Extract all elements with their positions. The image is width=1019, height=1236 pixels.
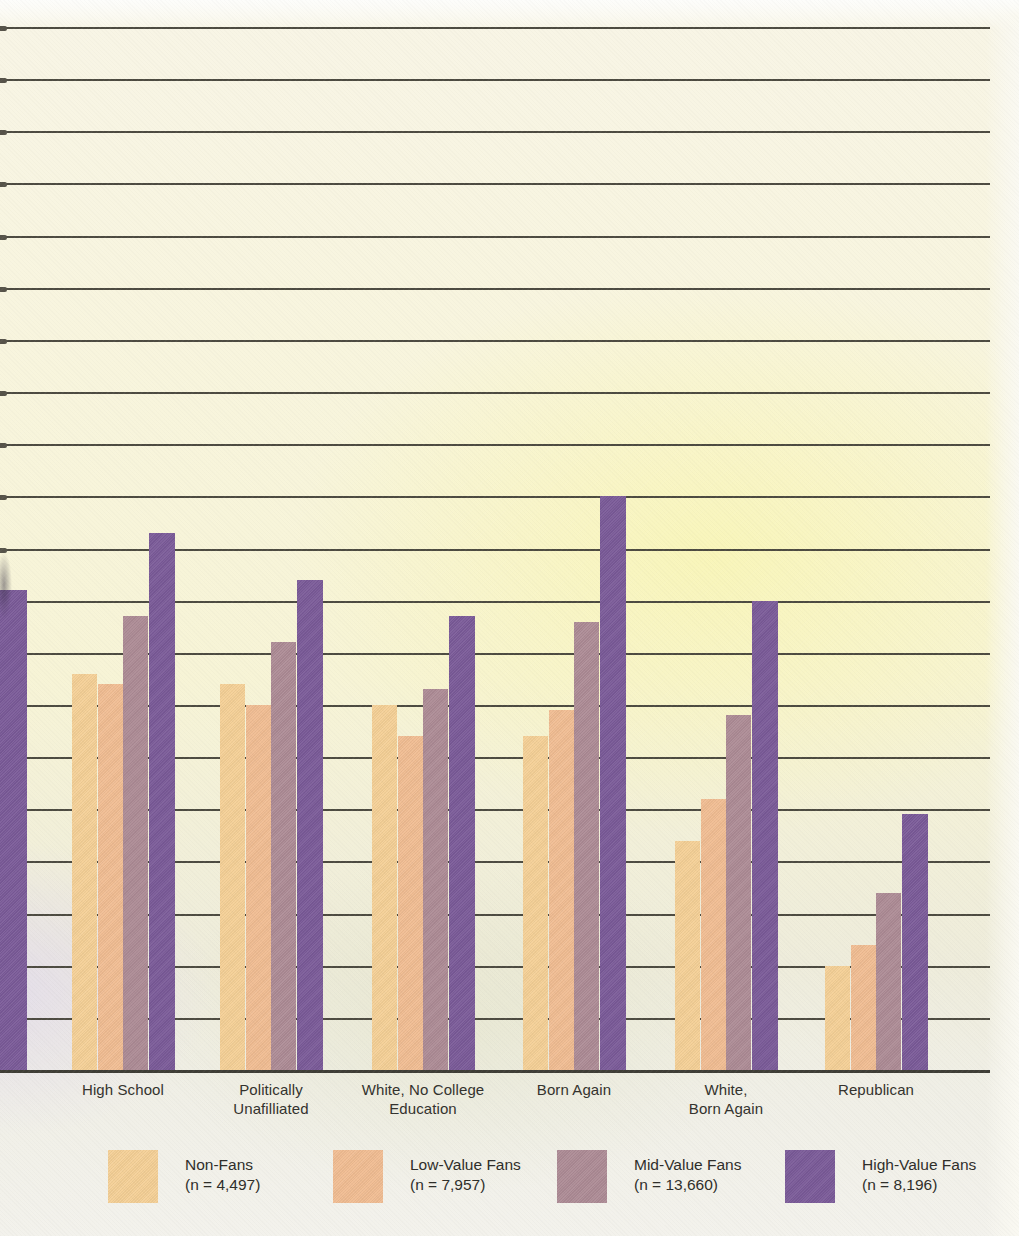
legend-series-name: Low-Value Fans bbox=[410, 1155, 521, 1175]
legend-label-mid-value-fans: Mid-Value Fans(n = 13,660) bbox=[634, 1155, 741, 1195]
book-page-photo: High SchoolPoliticallyUnafilliatedWhite,… bbox=[0, 0, 1019, 1236]
legend-swatch-low-value-fans bbox=[333, 1150, 383, 1203]
page-binding-notch bbox=[0, 182, 7, 187]
legend-label-low-value-fans: Low-Value Fans(n = 7,957) bbox=[410, 1155, 521, 1195]
gridline bbox=[0, 288, 990, 290]
legend-item-mid-value-fans: Mid-Value Fans(n = 13,660) bbox=[557, 1150, 777, 1206]
bar-cropped-high-value-fans bbox=[0, 590, 27, 1072]
x-axis-label-republican: Republican bbox=[788, 1080, 964, 1099]
legend-series-name: Mid-Value Fans bbox=[634, 1155, 741, 1175]
page-binding-notch bbox=[0, 339, 7, 344]
page-binding-notch bbox=[0, 235, 7, 240]
bar-mid-value-fans-born-again bbox=[574, 622, 599, 1072]
gridline bbox=[0, 79, 990, 81]
legend-series-name: Non-Fans bbox=[185, 1155, 260, 1175]
bar-high-value-fans-white-no-college-education bbox=[449, 616, 475, 1072]
bar-high-value-fans-high-school bbox=[149, 533, 175, 1072]
x-axis-label-line: Born Again bbox=[486, 1080, 662, 1099]
legend-item-low-value-fans: Low-Value Fans(n = 7,957) bbox=[333, 1150, 553, 1206]
bar-non-fans-high-school bbox=[72, 674, 97, 1072]
gridline bbox=[0, 444, 990, 446]
axis-baseline bbox=[0, 1070, 990, 1073]
bar-low-value-fans-born-again bbox=[549, 710, 574, 1072]
page-binding-notch bbox=[0, 130, 7, 135]
x-axis-label-line: Born Again bbox=[638, 1099, 814, 1118]
x-axis-label-line: Education bbox=[335, 1099, 511, 1118]
bar-high-value-fans-born-again bbox=[600, 496, 626, 1072]
x-axis-label-line: White, No College bbox=[335, 1080, 511, 1099]
gridline bbox=[0, 183, 990, 185]
bar-low-value-fans-white-born-again bbox=[701, 799, 726, 1072]
bar-low-value-fans-politically-unafilliated bbox=[246, 705, 271, 1072]
bar-high-value-fans-politically-unafilliated bbox=[297, 580, 323, 1072]
x-axis-label-born-again: Born Again bbox=[486, 1080, 662, 1099]
legend-label-high-value-fans: High-Value Fans(n = 8,196) bbox=[862, 1155, 976, 1195]
bar-mid-value-fans-politically-unafilliated bbox=[271, 642, 296, 1072]
bar-non-fans-born-again bbox=[523, 736, 548, 1072]
legend-series-name: High-Value Fans bbox=[862, 1155, 976, 1175]
legend-swatch-high-value-fans bbox=[785, 1150, 835, 1203]
legend-series-n: (n = 4,497) bbox=[185, 1175, 260, 1195]
gridline bbox=[0, 340, 990, 342]
x-axis-label-line: Politically bbox=[183, 1080, 359, 1099]
page-binding-notch bbox=[0, 287, 7, 292]
bar-mid-value-fans-white-no-college-education bbox=[423, 689, 448, 1072]
gridline bbox=[0, 236, 990, 238]
bar-non-fans-white-born-again bbox=[675, 841, 700, 1072]
bar-high-value-fans-white-born-again bbox=[752, 601, 778, 1072]
gridline bbox=[0, 496, 990, 498]
legend-series-n: (n = 13,660) bbox=[634, 1175, 741, 1195]
x-axis-label-line: Unafilliated bbox=[183, 1099, 359, 1118]
bar-low-value-fans-white-no-college-education bbox=[398, 736, 423, 1072]
bar-non-fans-republican bbox=[825, 966, 850, 1072]
gridline bbox=[0, 392, 990, 394]
legend-series-n: (n = 8,196) bbox=[862, 1175, 976, 1195]
x-axis-label-politically-unafilliated: PoliticallyUnafilliated bbox=[183, 1080, 359, 1118]
bar-non-fans-politically-unafilliated bbox=[220, 684, 245, 1072]
page-binding-notch bbox=[0, 78, 7, 83]
gridline bbox=[0, 131, 990, 133]
legend-item-high-value-fans: High-Value Fans(n = 8,196) bbox=[785, 1150, 1005, 1206]
legend-swatch-non-fans bbox=[108, 1150, 158, 1203]
bar-low-value-fans-republican bbox=[851, 945, 876, 1072]
bar-high-value-fans-republican bbox=[902, 814, 928, 1072]
gridline bbox=[0, 27, 990, 29]
page-edge-smudge bbox=[0, 552, 12, 618]
bar-mid-value-fans-republican bbox=[876, 893, 901, 1072]
bar-mid-value-fans-white-born-again bbox=[726, 715, 751, 1072]
page-binding-notch bbox=[0, 443, 7, 448]
legend-swatch-mid-value-fans bbox=[557, 1150, 607, 1203]
page-binding-notch bbox=[0, 26, 7, 31]
legend-series-n: (n = 7,957) bbox=[410, 1175, 521, 1195]
page-binding-notch bbox=[0, 391, 7, 396]
bar-mid-value-fans-high-school bbox=[123, 616, 148, 1072]
x-axis-label-white-no-college-education: White, No CollegeEducation bbox=[335, 1080, 511, 1118]
x-axis-label-line: Republican bbox=[788, 1080, 964, 1099]
bar-non-fans-white-no-college-education bbox=[372, 705, 397, 1072]
legend-label-non-fans: Non-Fans(n = 4,497) bbox=[185, 1155, 260, 1195]
legend-item-non-fans: Non-Fans(n = 4,497) bbox=[108, 1150, 328, 1206]
bar-low-value-fans-high-school bbox=[98, 684, 123, 1072]
page-binding-notch bbox=[0, 495, 7, 500]
